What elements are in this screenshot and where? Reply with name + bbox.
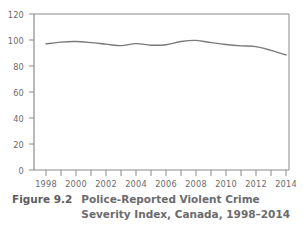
figure-caption-line-2: Severity Index, Canada, 1998–2014 [81,207,290,222]
line-chart-plot [0,0,305,192]
y-axis-ticks [29,14,34,170]
x-tick-label-2008: 2008 [181,179,211,189]
y-tick-label-80: 80 [0,62,24,72]
y-tick-label-120: 120 [0,10,24,20]
x-tick-label-2004: 2004 [121,179,151,189]
y-tick-label-40: 40 [0,114,24,124]
y-tick-label-20: 20 [0,140,24,150]
x-tick-label-2014: 2014 [271,179,301,189]
figure-container: 120 100 80 60 40 20 0 1998 2000 2002 200… [0,0,305,235]
x-tick-label-2010: 2010 [211,179,241,189]
x-tick-label-2000: 2000 [61,179,91,189]
figure-caption-text: Police-Reported Violent Crime Severity I… [81,192,290,222]
x-axis-ticks [46,170,286,176]
data-series-line [46,40,286,55]
figure-number-label: Figure 9.2 [12,192,72,205]
y-tick-label-0: 0 [0,166,24,176]
figure-caption: Figure 9.2 Police-Reported Violent Crime… [12,192,297,222]
figure-caption-line-1: Police-Reported Violent Crime [81,192,290,207]
x-tick-label-2002: 2002 [91,179,121,189]
plot-frame [34,14,289,170]
x-tick-label-2006: 2006 [151,179,181,189]
y-tick-label-100: 100 [0,36,24,46]
chart-area: 120 100 80 60 40 20 0 1998 2000 2002 200… [0,0,305,192]
y-tick-label-60: 60 [0,88,24,98]
x-tick-label-2012: 2012 [241,179,271,189]
x-tick-label-1998: 1998 [31,179,61,189]
